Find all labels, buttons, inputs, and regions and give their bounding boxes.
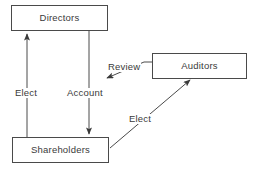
node-shareholders-label: Shareholders — [31, 145, 90, 155]
node-auditors[interactable]: Auditors — [152, 53, 247, 79]
diagram-canvas: Directors Shareholders Auditors Elect Ac… — [0, 0, 256, 174]
edge-label-account: Account — [66, 88, 104, 98]
edge-label-review: Review — [107, 62, 141, 72]
node-shareholders[interactable]: Shareholders — [12, 137, 109, 163]
node-directors[interactable]: Directors — [11, 5, 108, 31]
node-directors-label: Directors — [40, 13, 80, 23]
edge-label-elect-auditors: Elect — [128, 114, 152, 124]
edge-label-elect-directors: Elect — [14, 88, 38, 98]
node-auditors-label: Auditors — [181, 61, 217, 71]
